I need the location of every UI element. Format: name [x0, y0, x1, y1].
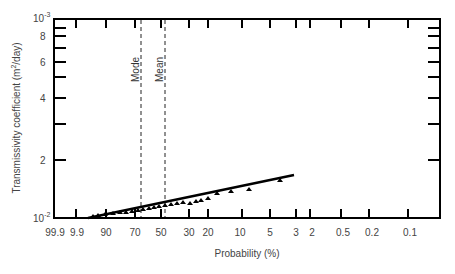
data-point	[180, 200, 186, 204]
x-tick-label: 0.5	[336, 227, 350, 238]
data-point	[187, 201, 193, 205]
mean-label: Mean	[154, 57, 165, 82]
y-axis-ticks-left	[54, 28, 66, 160]
x-tick-label: 0.1	[403, 227, 417, 238]
x-tick-label: 2	[309, 227, 315, 238]
x-tick-label: 9.9	[70, 227, 84, 238]
y-tick-label: 10-3	[33, 11, 50, 24]
x-tick-label: 90	[100, 227, 112, 238]
data-point	[205, 196, 211, 200]
x-axis-ticks-top	[76, 19, 408, 28]
y-tick-labels: 10-3 8 6 4 2 10-2	[33, 11, 50, 224]
x-tick-label: 3	[293, 227, 299, 238]
probability-plot: 10-3 8 6 4 2 10-2 99.9 9.9 90 70 50 30 2…	[0, 0, 455, 274]
y-tick-label: 10-2	[33, 211, 50, 224]
x-axis-title: Probability (%)	[214, 248, 279, 259]
y-axis-ticks-right	[428, 28, 440, 160]
data-point	[193, 199, 199, 203]
data-point	[246, 187, 252, 191]
y-tick-label: 4	[40, 93, 46, 104]
data-point	[168, 202, 174, 206]
data-point	[198, 198, 204, 202]
plot-frame	[54, 19, 440, 218]
y-tick-label: 8	[40, 31, 46, 42]
y-tick-label: 2	[40, 155, 46, 166]
x-tick-labels: 99.9 9.9 90 70 50 30 20 10 5 3 2 0.5 0.2…	[45, 227, 417, 238]
x-tick-label: 50	[155, 227, 167, 238]
x-tick-label: 99.9	[45, 227, 65, 238]
x-tick-label: 70	[129, 227, 141, 238]
y-tick-label: 6	[40, 57, 46, 68]
x-tick-label: 20	[202, 227, 214, 238]
mode-label: Mode	[130, 57, 141, 82]
x-tick-label: 10	[234, 227, 246, 238]
data-point	[174, 201, 180, 205]
x-tick-label: 0.2	[365, 227, 379, 238]
x-tick-label: 5	[267, 227, 273, 238]
x-tick-label: 30	[183, 227, 195, 238]
y-axis-title: Transmissivity coefficient (m2/day)	[10, 42, 22, 193]
